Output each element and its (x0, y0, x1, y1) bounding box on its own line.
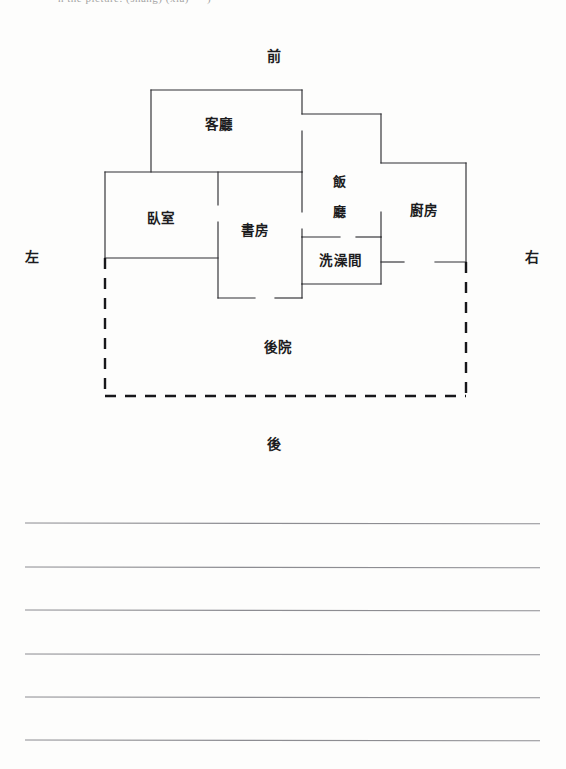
rule-line-group (25, 523, 540, 741)
floor-plan-svg: 客廳飯廳廚房臥室書房洗澡間後院 前左右後 (0, 0, 566, 480)
room-label-living-room: 客廳 (204, 116, 234, 132)
room-label-study: 書房 (241, 222, 270, 238)
room-label-line: 飯 (332, 174, 348, 189)
direction-label-group: 前左右後 (24, 48, 540, 452)
room-label-kitchen: 廚房 (410, 202, 439, 218)
room-label-line: 廳 (333, 204, 348, 219)
room-label-group: 客廳飯廳廚房臥室書房洗澡間後院 (147, 116, 439, 355)
writing-lines-svg (0, 480, 566, 769)
room-label-dining-room: 飯廳 (332, 174, 348, 219)
solid-wall-group (105, 90, 466, 298)
direction-label-back: 後 (267, 436, 282, 452)
direction-label-right: 右 (524, 249, 540, 265)
room-label-bedroom: 臥室 (147, 210, 176, 226)
writing-rule-line (25, 740, 540, 741)
writing-rule-line (25, 567, 540, 568)
floor-plan-figure: 客廳飯廳廚房臥室書房洗澡間後院 前左右後 (0, 0, 566, 480)
direction-label-front: 前 (267, 48, 282, 64)
writing-rule-line (25, 610, 540, 611)
room-label-courtyard: 後院 (264, 339, 293, 355)
page-canvas: h the picture. (shang) (xia) — ) - 客廳飯廳廚… (0, 0, 566, 769)
dashed-wall-group (105, 258, 466, 396)
writing-rule-line (25, 654, 540, 655)
room-label-bathroom: 洗澡間 (319, 252, 363, 268)
writing-rule-line (25, 523, 540, 524)
writing-lines-area (0, 480, 566, 769)
direction-label-left: 左 (24, 249, 40, 265)
writing-rule-line (25, 697, 540, 698)
